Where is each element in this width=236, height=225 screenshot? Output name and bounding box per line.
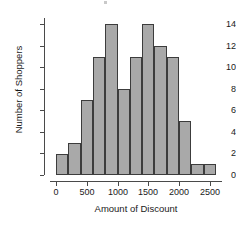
- y-axis-line: [44, 18, 45, 175]
- histogram-bar: [118, 89, 130, 175]
- plot-area: [50, 18, 222, 175]
- x-axis-tick-label: 2500: [190, 188, 230, 197]
- x-axis-line: [50, 181, 222, 182]
- histogram-bar: [154, 46, 166, 175]
- y-axis-tick: [40, 89, 44, 90]
- histogram-bars: [50, 18, 222, 175]
- x-axis-tick: [179, 182, 180, 186]
- y-axis-title: Number of Shoppers: [13, 10, 24, 170]
- y-axis-tick: [40, 67, 44, 68]
- histogram-bar: [204, 164, 216, 175]
- histogram-bar: [56, 154, 68, 176]
- x-axis-title: Amount of Discount: [50, 203, 222, 214]
- histogram-bar: [130, 57, 142, 175]
- histogram-figure: Number of Shoppers 02468101214 050010001…: [0, 0, 236, 225]
- y-axis-tick: [40, 110, 44, 111]
- y-axis-tick: [40, 153, 44, 154]
- histogram-bar: [105, 24, 117, 175]
- x-axis-tick: [118, 182, 119, 186]
- y-axis-tick: [40, 132, 44, 133]
- x-axis-tick: [87, 182, 88, 186]
- y-axis-tick: [40, 46, 44, 47]
- histogram-bar: [179, 121, 191, 175]
- top-edge-artifact: [104, 1, 107, 4]
- histogram-bar: [68, 143, 80, 175]
- x-axis-tick: [56, 182, 57, 186]
- histogram-bar: [81, 100, 93, 175]
- histogram-bar: [191, 164, 203, 175]
- y-axis-tick: [40, 175, 44, 176]
- histogram-bar: [93, 57, 105, 175]
- histogram-bar: [167, 57, 179, 175]
- x-axis-tick: [148, 182, 149, 186]
- histogram-bar: [142, 24, 154, 175]
- y-axis-tick: [40, 24, 44, 25]
- x-axis-tick: [210, 182, 211, 186]
